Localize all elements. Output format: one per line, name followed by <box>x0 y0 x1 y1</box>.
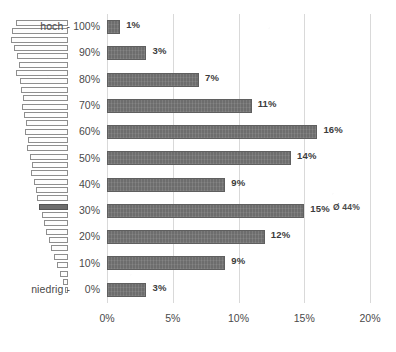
y-axis-ticks: 100%90%80%70%60%50%40%30%20%10%0% <box>0 0 104 352</box>
y-tick-70%: 70% <box>79 99 100 111</box>
bar-0% <box>107 283 146 297</box>
x-tick-5%: 5% <box>165 312 180 324</box>
bar-value-label: 12% <box>271 229 291 240</box>
bar-40% <box>107 178 225 192</box>
bar-90% <box>107 46 146 60</box>
bar-row: 11% <box>107 93 370 119</box>
chart-container: Ø 44% 100%90%80%70%60%50%40%30%20%10%0% … <box>0 0 396 352</box>
x-tick-20%: 20% <box>359 312 380 324</box>
bar-10% <box>107 256 225 270</box>
bar-row: 1% <box>107 14 370 40</box>
bar-row: 9% <box>107 172 370 198</box>
y-tick-50%: 50% <box>79 152 100 164</box>
bar-row: 16% <box>107 119 370 145</box>
x-axis-ticks: 0%5%10%15%20% <box>0 312 396 332</box>
bar-50% <box>107 151 291 165</box>
bar-value-label: 3% <box>152 282 166 293</box>
bar-value-label: 16% <box>323 124 343 135</box>
bar-value-label: 15% <box>310 203 330 214</box>
bar-70% <box>107 99 252 113</box>
x-tick-10%: 10% <box>228 312 249 324</box>
gridline-20% <box>370 14 371 303</box>
y-tick-90%: 90% <box>79 46 100 58</box>
bar-100% <box>107 20 120 34</box>
x-tick-15%: 15% <box>294 312 315 324</box>
bar-value-label: 9% <box>231 255 245 266</box>
y-tick-0%: 0% <box>85 283 100 295</box>
plot-area: 1%3%7%11%16%14%9%15%12%9%3% <box>107 14 370 303</box>
bar-value-label: 7% <box>205 72 219 83</box>
y-axis-bottom-label: niedrig - <box>31 283 70 295</box>
bar-value-label: 11% <box>258 98 277 109</box>
bar-80% <box>107 73 199 87</box>
y-tick-100%: 100% <box>73 20 100 32</box>
bar-60% <box>107 125 317 139</box>
y-tick-40%: 40% <box>79 178 100 190</box>
bar-value-label: 14% <box>297 150 317 161</box>
y-axis-top-label: hoch - <box>40 20 70 32</box>
y-tick-80%: 80% <box>79 73 100 85</box>
bar-row: 7% <box>107 67 370 93</box>
bar-value-label: 1% <box>126 19 140 30</box>
bar-row: 15% <box>107 198 370 224</box>
bar-value-label: 3% <box>152 45 166 56</box>
y-tick-10%: 10% <box>79 257 100 269</box>
bar-row: 14% <box>107 145 370 171</box>
bar-row: 9% <box>107 250 370 276</box>
bar-row: 12% <box>107 224 370 250</box>
x-tick-0%: 0% <box>99 312 114 324</box>
bar-value-label: 9% <box>231 177 245 188</box>
bar-30% <box>107 204 304 218</box>
y-tick-20%: 20% <box>79 230 100 242</box>
bar-row: 3% <box>107 40 370 66</box>
y-tick-30%: 30% <box>79 204 100 216</box>
bar-20% <box>107 230 265 244</box>
bar-row: 3% <box>107 277 370 303</box>
y-tick-60%: 60% <box>79 125 100 137</box>
